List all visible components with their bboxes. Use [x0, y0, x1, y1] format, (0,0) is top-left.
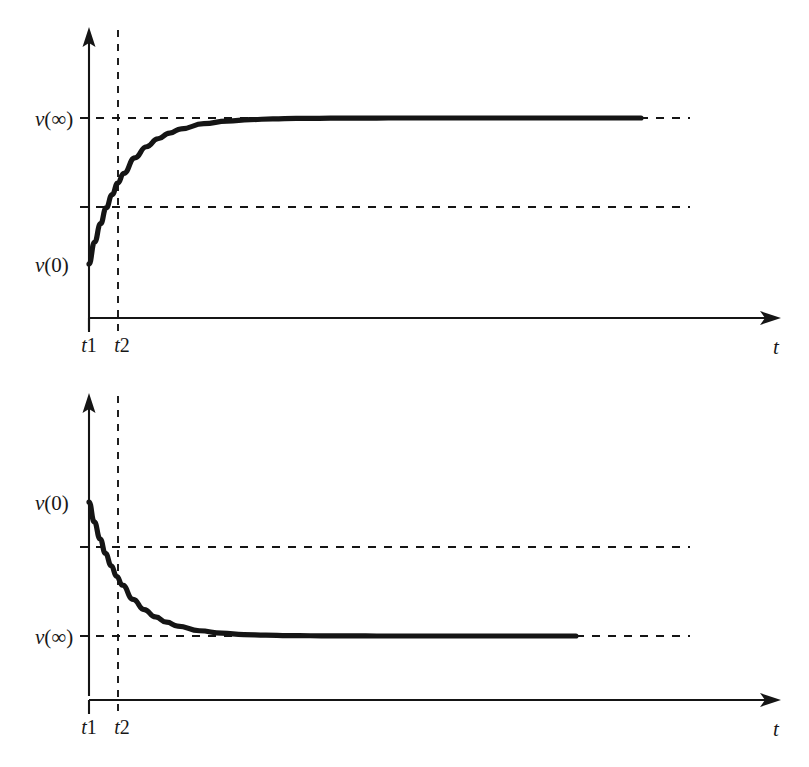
rising-exponential-panel: v(∞) v(0) t1 t2 t: [0, 0, 809, 384]
final-value-label: v(∞): [35, 625, 73, 649]
rising-exponential-curve: [89, 118, 641, 264]
x-axis-label: t: [773, 717, 780, 741]
tick-label-t1: t1: [81, 716, 97, 738]
x-axis-label: t: [773, 335, 780, 359]
initial-value-label: v(0): [35, 491, 69, 515]
initial-value-label: v(0): [35, 253, 69, 277]
final-value-label: v(∞): [35, 107, 73, 131]
figure-sheet: v(∞) v(0) t1 t2 t: [0, 0, 809, 767]
tick-label-t1: t1: [81, 334, 97, 356]
falling-exponential-plot: v(0) v(∞) t1 t2 t: [0, 384, 809, 767]
rising-exponential-plot: v(∞) v(0) t1 t2 t: [0, 0, 809, 384]
tick-label-t2: t2: [114, 334, 130, 356]
falling-exponential-curve: [89, 502, 576, 636]
tick-label-t2: t2: [114, 716, 130, 738]
falling-exponential-panel: v(0) v(∞) t1 t2 t: [0, 384, 809, 767]
